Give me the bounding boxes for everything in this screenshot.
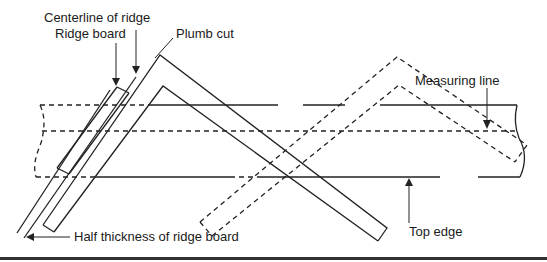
ridge-board [17, 77, 136, 238]
label-measuring-line: Measuring line [415, 73, 500, 88]
callout-plumb-cut: Plumb cut [155, 26, 234, 58]
label-half-thickness: Half thickness of ridge board [74, 229, 239, 244]
rafter-stock [35, 105, 525, 177]
callout-centerline: Centerline of ridge [44, 10, 150, 74]
label-ridge-board: Ridge board [55, 26, 126, 41]
callout-measuring-line: Measuring line [415, 73, 500, 129]
callout-ridge-board: Ridge board [55, 26, 126, 86]
label-centerline: Centerline of ridge [44, 10, 150, 25]
callout-half-thickness: Half thickness of ridge board [26, 229, 239, 244]
label-top-edge: Top edge [409, 224, 463, 239]
label-plumb-cut: Plumb cut [176, 26, 234, 41]
callout-top-edge: Top edge [405, 178, 463, 239]
bottom-rule [0, 257, 547, 260]
rafter-layout-diagram: Centerline of ridge Ridge board Plumb cu… [0, 0, 547, 262]
framing-square-solid [43, 55, 387, 241]
